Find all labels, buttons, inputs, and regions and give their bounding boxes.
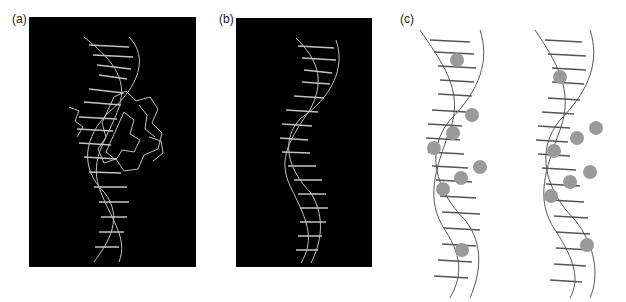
panel-c-image	[410, 20, 625, 300]
panel-a-image	[29, 17, 196, 267]
panel-b-image	[236, 18, 372, 267]
panel-b-label: (b)	[219, 12, 234, 26]
dna-helix-illustration	[236, 18, 372, 267]
dna-helices-contact-sites-illustration	[410, 20, 625, 300]
dna-protein-complex-illustration	[29, 17, 196, 267]
panel-a-label: (a)	[12, 12, 27, 26]
